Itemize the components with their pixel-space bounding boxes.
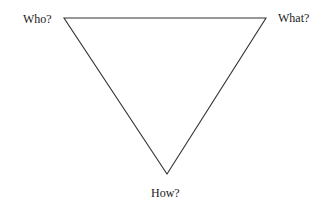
triangle-diagram: Who? What? How?: [0, 0, 325, 206]
vertex-label-how: How?: [151, 186, 180, 200]
vertex-label-what: What?: [278, 11, 309, 25]
vertex-label-who: Who?: [23, 12, 52, 26]
triangle-shape: [0, 0, 325, 206]
